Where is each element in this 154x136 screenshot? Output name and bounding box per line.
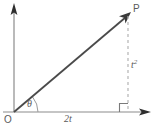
geometry-diagram: P O θ 2t t2 xyxy=(0,0,154,136)
label-height-t-squared: t2 xyxy=(131,60,137,70)
right-angle-marker xyxy=(120,104,129,113)
angle-arc xyxy=(33,97,38,112)
label-point-p: P xyxy=(133,4,140,14)
label-height-exponent: 2 xyxy=(134,58,138,66)
label-origin: O xyxy=(4,115,12,125)
label-angle-theta: θ xyxy=(27,99,32,109)
label-base-2t: 2t xyxy=(64,114,72,124)
